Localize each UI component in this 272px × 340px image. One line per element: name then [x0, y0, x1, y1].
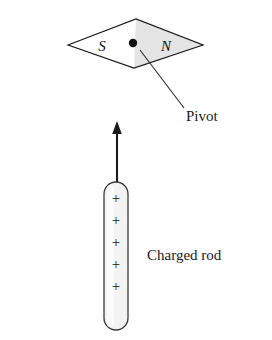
physics-figure: S N + + + + + Pivot Charged rod	[0, 0, 272, 340]
pivot-label: Pivot	[186, 109, 218, 124]
pivot-dot	[129, 39, 137, 47]
charged-rod: + + + + +	[104, 182, 128, 330]
rod-charge-1: +	[112, 190, 120, 206]
rod-charge-2: +	[112, 212, 120, 228]
rod-charge-5: +	[112, 278, 120, 294]
charged-rod-label: Charged rod	[147, 248, 221, 263]
field-arrow-head	[112, 121, 122, 134]
compass-needle: S N	[68, 19, 203, 68]
rod-charge-4: +	[112, 256, 120, 272]
field-arrow	[112, 121, 122, 183]
figure-canvas: S N + + + + +	[0, 0, 272, 340]
compass-north-label: N	[160, 38, 172, 54]
rod-charge-3: +	[112, 234, 120, 250]
compass-south-label: S	[98, 38, 106, 54]
